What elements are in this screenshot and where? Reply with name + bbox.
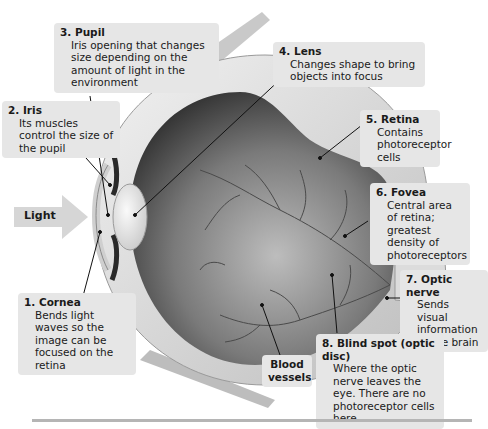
lens-shape xyxy=(113,184,147,250)
light-label: Light xyxy=(24,209,56,222)
label-blood-vessels: Blood vessels xyxy=(262,355,312,387)
label-retina: 5. Retina Contains photoreceptor cells xyxy=(360,110,440,167)
label-title: Fovea xyxy=(391,186,426,198)
label-pupil: 3. Pupil Iris opening that changes size … xyxy=(54,23,219,93)
label-title: Iris xyxy=(23,104,42,116)
label-description: Contains photoreceptor cells xyxy=(366,126,434,164)
label-title: Lens xyxy=(294,45,322,57)
label-description: Where the optic nerve leaves the eye. Th… xyxy=(322,362,438,425)
label-title: Blood vessels xyxy=(268,358,306,383)
label-description: Its muscles control the size of the pupi… xyxy=(8,117,114,155)
bottom-rule-divider xyxy=(32,419,472,422)
label-fovea: 6. Fovea Central area of retina; greates… xyxy=(370,183,470,265)
label-blind-spot: 8. Blind spot (optic disc) Where the opt… xyxy=(316,334,444,429)
label-title: Cornea xyxy=(39,296,81,308)
label-description: Bends light waves so the image can be fo… xyxy=(24,309,130,372)
label-title: Retina xyxy=(381,113,419,125)
label-title: Blind spot (optic disc) xyxy=(322,337,435,362)
label-description: Iris opening that changes size depending… xyxy=(60,39,213,89)
label-lens: 4. Lens Changes shape to bring objects i… xyxy=(273,42,425,87)
label-iris: 2. Iris Its muscles control the size of … xyxy=(2,101,120,158)
label-description: Central area of retina; greatest density… xyxy=(376,199,464,262)
label-cornea: 1. Cornea Bends light waves so the image… xyxy=(18,293,136,375)
label-description: Changes shape to bring objects into focu… xyxy=(279,58,419,83)
label-title: Pupil xyxy=(75,26,105,38)
